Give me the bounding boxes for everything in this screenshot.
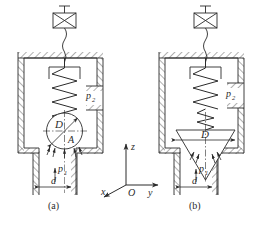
caption-b: (b) (189, 200, 201, 212)
axis-x (104, 185, 126, 197)
spring-b-upper (193, 58, 218, 109)
label-d-b: d (192, 175, 198, 186)
solenoid-crossed-box-icon-b (194, 6, 217, 28)
label-p2-sub-b: 2 (232, 94, 236, 101)
label-axis-x: x (100, 186, 106, 197)
label-D-b: D (200, 128, 209, 140)
label-p1-sub-b: 1 (205, 169, 208, 176)
label-A-a: A (67, 134, 75, 145)
label-p2-sub-a: 2 (92, 96, 96, 103)
label-p1-b: p (198, 163, 204, 174)
label-p2-a: p (85, 90, 91, 101)
label-D-a: D (54, 118, 63, 130)
caption-a: (a) (48, 200, 59, 212)
label-axis-z: z (130, 141, 135, 152)
label-d-a: d (51, 175, 57, 186)
label-axis-y: y (147, 187, 153, 198)
label-axis-origin: O (128, 187, 135, 198)
schematic-svg: D A p 1 p 2 d (a) D p 1 p 2 d (b) z y x … (0, 0, 258, 225)
label-p2-b: p (225, 88, 231, 99)
label-p1-sub-a: 1 (64, 169, 67, 176)
label-p1-a: p (57, 163, 63, 174)
solenoid-crossed-box-icon (53, 6, 76, 28)
figure-canvas: D A p 1 p 2 d (a) D p 1 p 2 d (b) z y x … (0, 0, 258, 225)
